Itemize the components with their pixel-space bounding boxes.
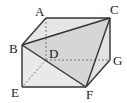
label-f: F bbox=[86, 87, 93, 102]
label-c: C bbox=[110, 2, 119, 17]
label-a: A bbox=[35, 4, 45, 19]
label-e: E bbox=[11, 85, 19, 100]
label-b: B bbox=[9, 41, 18, 56]
label-d: D bbox=[49, 46, 58, 61]
box-diagram: A C B D G E F bbox=[0, 0, 127, 103]
label-g: G bbox=[113, 53, 122, 68]
